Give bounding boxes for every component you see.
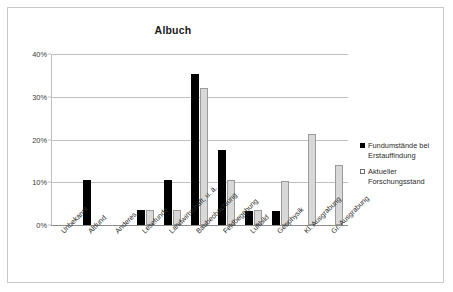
legend-label-line-1: Fundumstände bei	[368, 141, 429, 150]
legend-label-series-1: Fundumstände bei Erstauffindung	[368, 141, 429, 160]
chart-title: Albuch	[8, 24, 338, 36]
chart-frame: Albuch 0%10%20%30%40% UnbekanntAltfundAn…	[7, 7, 444, 283]
x-axis-labels: UnbekanntAltfundAnderesLesefundeLandwirt…	[51, 227, 351, 289]
filled-square-icon	[360, 143, 365, 148]
hollow-square-icon	[360, 169, 365, 174]
legend-label-line-1: Aktueller	[368, 167, 397, 176]
legend-item-series-1: Fundumstände bei Erstauffindung	[360, 141, 452, 160]
y-axis-tick-label: 20%	[13, 135, 47, 144]
chart-legend: Fundumstände bei Erstauffindung Aktuelle…	[360, 141, 452, 193]
legend-item-series-2: Aktueller Forschungsstand	[360, 167, 452, 186]
y-axis-tick-label: 0%	[13, 221, 47, 230]
y-axis-tick-label: 40%	[13, 50, 47, 59]
y-axis-tick-mark	[48, 139, 51, 140]
legend-label-line-2: Forschungsstand	[368, 177, 425, 186]
legend-label-series-2: Aktueller Forschungsstand	[368, 167, 425, 186]
y-axis-tick-mark	[48, 54, 51, 55]
y-axis-tick-mark	[48, 96, 51, 97]
y-axis-tick-mark	[48, 225, 51, 226]
y-axis-tick-mark	[48, 182, 51, 183]
y-axis-tick-label: 30%	[13, 92, 47, 101]
legend-label-line-2: Erstauffindung	[368, 151, 416, 160]
y-axis-tick-label: 10%	[13, 178, 47, 187]
